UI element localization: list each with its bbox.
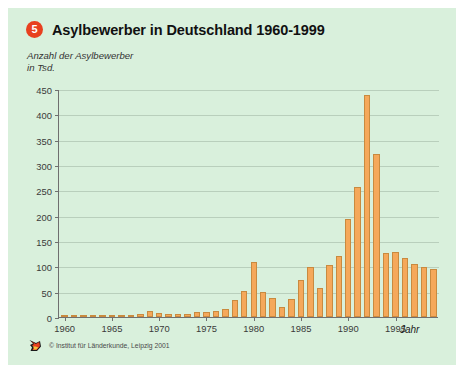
copyright-text: © Institut für Länderkunde, Leipzig 2001: [49, 342, 170, 349]
y-axis-tick: [55, 90, 59, 91]
x-axis-label: 1960: [54, 323, 75, 334]
bar: [222, 309, 228, 317]
page-title: Asylbewerber in Deutschland 1960-1999: [52, 22, 325, 38]
bar: [269, 298, 275, 317]
bar: [251, 262, 257, 317]
bar: [71, 315, 77, 317]
bar: [156, 313, 162, 317]
y-axis-tick: [55, 293, 59, 294]
bar: [392, 252, 398, 317]
bar: [90, 315, 96, 317]
x-axis-label: 1965: [101, 323, 122, 334]
bar: [109, 315, 115, 317]
x-axis-tick: [348, 317, 349, 321]
chart-header: 5 Asylbewerber in Deutschland 1960-1999: [26, 21, 325, 38]
y-axis-label: 350: [36, 135, 52, 146]
bar: [203, 312, 209, 317]
bar: [298, 280, 304, 317]
figure-number-badge: 5: [26, 21, 43, 38]
fox-head-logo-icon: [28, 338, 43, 353]
y-axis-tick: [55, 166, 59, 167]
x-axis-tick: [396, 317, 397, 321]
bar: [402, 258, 408, 317]
gridline: [59, 242, 439, 243]
y-axis-label: 400: [36, 110, 52, 121]
bar: [194, 312, 200, 317]
bar: [326, 265, 332, 317]
bar: [411, 264, 417, 317]
x-axis-label: 1985: [291, 323, 312, 334]
y-axis-label: 450: [36, 85, 52, 96]
x-axis-tick: [159, 317, 160, 321]
bar: [241, 291, 247, 317]
x-axis-label: 1970: [149, 323, 170, 334]
x-axis-tick: [65, 317, 66, 321]
chart-subtitle: Anzahl der Asylbewerber in Tsd.: [27, 50, 133, 73]
y-axis-label: 150: [36, 237, 52, 248]
bar: [336, 256, 342, 317]
bar: [317, 288, 323, 317]
bar: [354, 187, 360, 317]
bar: [213, 311, 219, 317]
bar: [80, 315, 86, 317]
bar: [421, 267, 427, 317]
bar: [118, 315, 124, 317]
bar: [279, 307, 285, 317]
gridline: [59, 217, 439, 218]
bar: [128, 315, 134, 317]
y-axis-tick: [55, 217, 59, 218]
bar: [99, 315, 105, 317]
bar: [345, 219, 351, 317]
bar: [137, 314, 143, 317]
chart-plot-area: 050100150200250300350400450 196019651970…: [58, 90, 438, 318]
chart-page: 5 Asylbewerber in Deutschland 1960-1999 …: [8, 8, 456, 365]
bar: [430, 269, 436, 317]
chart-footer: © Institut für Länderkunde, Leipzig 2001: [28, 338, 170, 353]
bar: [61, 315, 67, 317]
y-axis-tick: [55, 115, 59, 116]
bar: [232, 300, 238, 317]
gridline: [59, 191, 439, 192]
x-axis-label: 1990: [338, 323, 359, 334]
y-axis-label: 250: [36, 186, 52, 197]
x-axis-label: 1975: [196, 323, 217, 334]
gridline: [59, 115, 439, 116]
bar: [175, 314, 181, 317]
y-axis-tick: [55, 267, 59, 268]
bar: [364, 95, 370, 317]
x-axis-tick: [301, 317, 302, 321]
x-axis-label: 1980: [243, 323, 264, 334]
x-axis-title: Jahr: [400, 324, 419, 335]
bar: [165, 314, 171, 317]
x-axis-tick: [206, 317, 207, 321]
y-axis-label: 100: [36, 262, 52, 273]
y-axis-label: 200: [36, 211, 52, 222]
x-axis-tick: [254, 317, 255, 321]
y-axis-tick: [55, 242, 59, 243]
bar: [373, 154, 379, 317]
bar: [383, 253, 389, 317]
y-axis-label: 0: [47, 313, 52, 324]
bar: [307, 267, 313, 318]
bar: [260, 292, 266, 317]
y-axis-label: 300: [36, 161, 52, 172]
gridline: [59, 141, 439, 142]
y-axis-label: 50: [42, 287, 52, 298]
gridline: [59, 90, 439, 91]
y-axis-tick: [55, 318, 59, 319]
bar: [184, 314, 190, 317]
gridline: [59, 166, 439, 167]
y-axis-tick: [55, 141, 59, 142]
y-axis-tick: [55, 191, 59, 192]
x-axis-tick: [112, 317, 113, 321]
bar: [147, 311, 153, 317]
bar: [288, 299, 294, 317]
